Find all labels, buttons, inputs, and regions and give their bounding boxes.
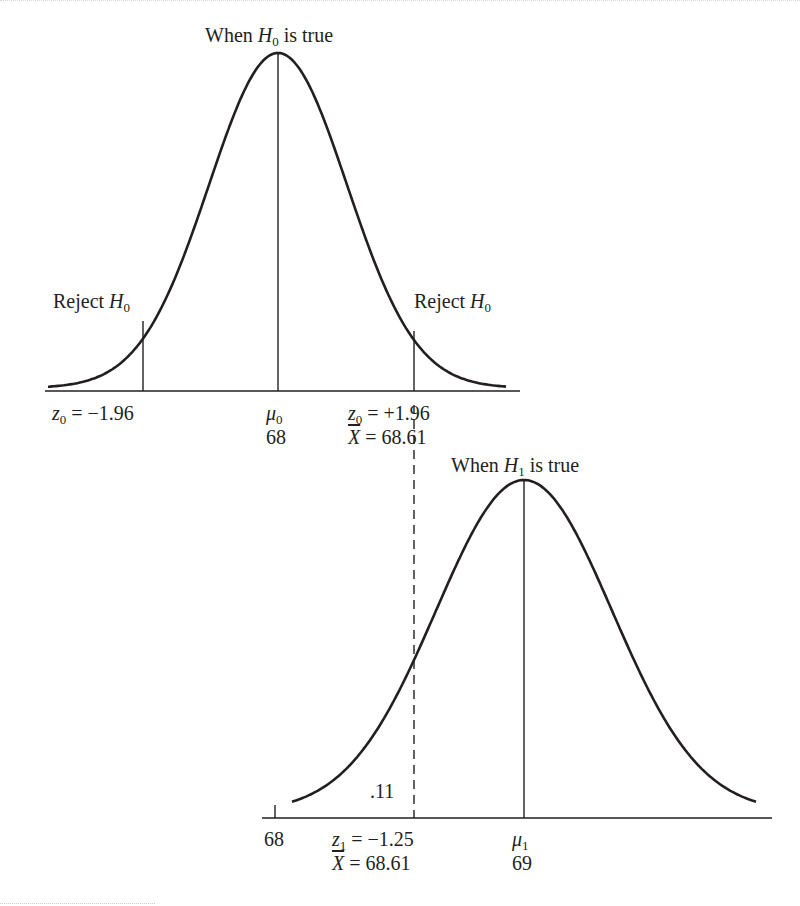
xbar-var: X bbox=[348, 426, 360, 448]
title-text-rest: is true bbox=[279, 24, 333, 46]
mu-var: μ bbox=[512, 828, 522, 850]
title-text-rest: is true bbox=[525, 454, 579, 476]
title-text: When bbox=[205, 24, 258, 46]
h-sub: 0 bbox=[124, 300, 131, 315]
xbar-value: = 68.61 bbox=[360, 426, 426, 448]
h-var: H bbox=[258, 24, 272, 46]
null-title: When H0 is true bbox=[205, 24, 333, 46]
null-distribution-plot bbox=[45, 53, 520, 391]
area-label: .11 bbox=[370, 780, 394, 802]
mu-sub: 1 bbox=[522, 838, 529, 853]
xbar-value: = 68.61 bbox=[344, 852, 410, 874]
xbar-top-label: X = 68.61 bbox=[348, 426, 427, 448]
h-var: H bbox=[470, 290, 484, 312]
mu0-label: μ0 bbox=[266, 402, 283, 424]
z-value: = −1.96 bbox=[66, 402, 134, 424]
reject-text: Reject bbox=[53, 290, 109, 312]
mu-var: μ bbox=[266, 402, 276, 424]
mu1-label: μ1 bbox=[512, 828, 529, 850]
z1-label: z1 = −1.25 bbox=[332, 828, 414, 850]
z-value: = +1.96 bbox=[362, 402, 430, 424]
mu-sub: 0 bbox=[276, 412, 283, 427]
title-text: When bbox=[451, 454, 504, 476]
bottom-dotted-border bbox=[0, 903, 155, 904]
hypothesis-test-diagram bbox=[0, 0, 800, 906]
reject-text: Reject bbox=[414, 290, 470, 312]
h-sub: 0 bbox=[485, 300, 492, 315]
reject-right-label: Reject H0 bbox=[414, 290, 491, 312]
z-var: z bbox=[52, 402, 60, 424]
xbar-bottom-label: X = 68.61 bbox=[332, 852, 411, 874]
z-var: z bbox=[332, 828, 340, 850]
mu1-value: 69 bbox=[512, 852, 532, 874]
h-var: H bbox=[109, 290, 123, 312]
z-value: = −1.25 bbox=[346, 828, 414, 850]
z0-left-label: z0 = −1.96 bbox=[52, 402, 134, 424]
h-var: H bbox=[504, 454, 518, 476]
alternative-distribution-plot bbox=[262, 480, 772, 818]
mu0-value: 68 bbox=[266, 426, 286, 448]
xbar-var: X bbox=[332, 852, 344, 874]
z-var: z bbox=[348, 402, 356, 424]
tick-68-label: 68 bbox=[264, 828, 284, 850]
reject-left-label: Reject H0 bbox=[53, 290, 130, 312]
z0-right-label: z0 = +1.96 bbox=[348, 402, 430, 424]
alternative-title: When H1 is true bbox=[451, 454, 579, 476]
null-normal-curve bbox=[48, 53, 506, 387]
